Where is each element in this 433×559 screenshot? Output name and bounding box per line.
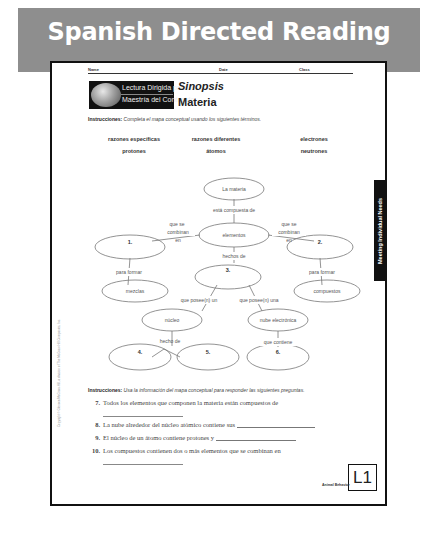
node-blank-1: 1. bbox=[128, 239, 133, 245]
question-10: 10.Los compuestos contienen dos o más el… bbox=[90, 447, 281, 454]
side-tab: Meeting Individual Needs bbox=[374, 180, 385, 281]
node-blank-6: 6. bbox=[276, 349, 281, 355]
worksheet-page: Name Date Class Lectura Dirigida para la… bbox=[50, 61, 387, 506]
node-nube: nube electrónica bbox=[260, 317, 297, 323]
node-mezclas: mezclas bbox=[126, 288, 145, 294]
banner-title: Spanish Directed Reading bbox=[18, 18, 420, 46]
instructions-2-label: Instrucciones: bbox=[88, 387, 122, 393]
link-formar-right: para formar bbox=[309, 269, 335, 275]
link-combinan-left-3: en bbox=[175, 237, 181, 243]
instructions-2-text: Usa la información del mapa conceptual p… bbox=[124, 387, 305, 393]
answer-9-field[interactable] bbox=[216, 434, 296, 441]
node-materia: La materia bbox=[222, 186, 246, 192]
link-combinan-left-2: combinan bbox=[167, 229, 189, 235]
link-compuesta: está compuesta de bbox=[213, 207, 255, 213]
link-combinan-left-1: que se bbox=[169, 221, 184, 227]
answer-7-field[interactable] bbox=[103, 416, 183, 417]
node-elementos: elementos bbox=[222, 232, 246, 238]
link-combinan-right-3: en bbox=[286, 237, 292, 243]
answer-8-field[interactable] bbox=[237, 421, 315, 428]
copyright-notice: Copyright © Glencoe/McGraw-Hill, a divis… bbox=[54, 293, 64, 453]
link-posee-una: que posee(n) una bbox=[239, 297, 278, 303]
question-7: 7.Todos los elementos que componen la ma… bbox=[90, 399, 278, 406]
node-nucleo: núcleo bbox=[165, 317, 180, 323]
node-blank-5: 5. bbox=[206, 349, 211, 355]
instructions-2: Instrucciones: Usa la información del ma… bbox=[88, 387, 305, 393]
link-posee-un: que posee(n) un bbox=[181, 297, 218, 303]
node-blank-2: 2. bbox=[318, 239, 323, 245]
node-compuestos: compuestos bbox=[314, 288, 341, 294]
answer-10-field[interactable] bbox=[103, 464, 183, 465]
link-formar-left: para formar bbox=[116, 269, 142, 275]
question-8: 8.La nube alrededor del núcleo atómico c… bbox=[90, 421, 315, 428]
footer-unit: Animal Behavior bbox=[322, 483, 350, 487]
node-blank-4: 4. bbox=[138, 349, 143, 355]
node-blank-3: 3. bbox=[226, 267, 231, 273]
link-contiene: que contiene bbox=[264, 339, 293, 345]
link-hecho-de: hecho de bbox=[160, 338, 181, 344]
link-combinan-right-1: que se bbox=[281, 221, 296, 227]
level-badge: L1 bbox=[348, 464, 377, 491]
link-combinan-right-2: combinan bbox=[278, 229, 300, 235]
question-9: 9.El núcleo de un átomo contiene protone… bbox=[90, 434, 296, 441]
link-hechos: hechos de bbox=[222, 253, 245, 259]
